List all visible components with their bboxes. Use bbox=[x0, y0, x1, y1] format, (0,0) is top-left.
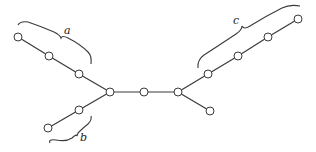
edges bbox=[18, 19, 298, 128]
tree-node bbox=[45, 52, 53, 60]
tree-node bbox=[106, 88, 114, 96]
tree-node bbox=[174, 88, 182, 96]
edge bbox=[178, 74, 208, 92]
tree-node bbox=[140, 88, 148, 96]
edge bbox=[48, 110, 79, 128]
tree-node bbox=[75, 106, 83, 114]
edge bbox=[208, 56, 238, 74]
braces bbox=[18, 5, 300, 143]
edge bbox=[49, 56, 79, 74]
tree-node bbox=[234, 52, 242, 60]
edge bbox=[238, 37, 268, 56]
edge bbox=[79, 74, 110, 92]
tree-node bbox=[206, 107, 214, 115]
brace-a bbox=[18, 22, 91, 64]
label-c: c bbox=[233, 15, 239, 26]
edge bbox=[178, 92, 210, 111]
nodes bbox=[14, 15, 302, 132]
edge bbox=[18, 37, 49, 56]
edge bbox=[268, 19, 298, 37]
tree-node bbox=[75, 70, 83, 78]
label-a: a bbox=[64, 25, 71, 36]
label-b: b bbox=[80, 132, 87, 143]
brace-c bbox=[198, 5, 300, 68]
tree-node bbox=[204, 70, 212, 78]
tree-node bbox=[44, 124, 52, 132]
tree-node bbox=[264, 33, 272, 41]
tree-node bbox=[14, 33, 22, 41]
tree-node bbox=[294, 15, 302, 23]
tree-diagram: a b c bbox=[0, 0, 316, 152]
edge bbox=[79, 92, 110, 110]
diagram-svg bbox=[0, 0, 316, 152]
